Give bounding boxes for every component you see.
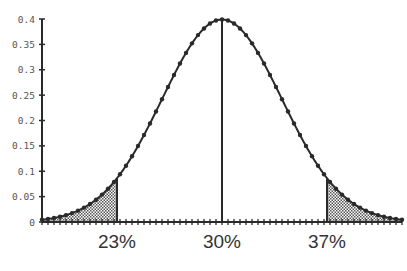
data-point: [148, 121, 152, 125]
data-point: [202, 26, 206, 30]
y-tick-label: 0.35: [12, 39, 35, 50]
shaded-tail: [327, 178, 402, 222]
data-point: [322, 172, 326, 176]
data-point: [394, 217, 398, 221]
data-point: [46, 217, 50, 221]
reference-lines: [117, 20, 327, 222]
data-point: [40, 218, 44, 222]
data-point: [196, 33, 200, 37]
data-point: [106, 186, 110, 190]
data-point: [346, 197, 350, 201]
x-tick-label: 37%: [308, 231, 346, 252]
data-point: [208, 21, 212, 25]
data-point: [124, 164, 128, 168]
y-tick-label: 0.15: [12, 140, 35, 151]
y-tick-label: 0: [29, 217, 35, 228]
y-tick-label: 0.25: [12, 90, 35, 101]
data-point: [82, 205, 86, 209]
data-point: [298, 133, 302, 137]
data-point: [142, 133, 146, 137]
y-axis-labels: 00.050.10.150.20.250.30.350.4: [12, 14, 35, 228]
x-tick-label: 30%: [203, 231, 241, 252]
y-tick-label: 0.1: [18, 166, 35, 177]
data-point: [178, 61, 182, 65]
data-point: [70, 211, 74, 215]
data-point: [334, 186, 338, 190]
data-point: [400, 218, 404, 222]
data-point: [382, 215, 386, 219]
data-point: [286, 109, 290, 113]
data-point: [262, 61, 266, 65]
data-point: [100, 192, 104, 196]
data-point: [154, 109, 158, 113]
data-point: [94, 197, 98, 201]
y-tick-label: 0.4: [18, 14, 35, 25]
data-point: [130, 154, 134, 158]
data-point: [310, 154, 314, 158]
data-point: [214, 18, 218, 22]
data-point: [256, 51, 260, 55]
data-point: [250, 41, 254, 45]
data-point: [160, 97, 164, 101]
data-point: [364, 208, 368, 212]
data-point: [244, 33, 248, 37]
data-point: [88, 202, 92, 206]
data-point: [58, 215, 62, 219]
data-point: [292, 121, 296, 125]
data-point: [304, 144, 308, 148]
data-point: [352, 202, 356, 206]
y-tick-label: 0.2: [18, 115, 35, 126]
data-point: [64, 213, 68, 217]
y-tick-label: 0.3: [18, 64, 35, 75]
data-point: [172, 73, 176, 77]
data-point: [316, 164, 320, 168]
data-point: [166, 85, 170, 89]
data-point: [226, 18, 230, 22]
x-axis-labels: 23%30%37%: [98, 231, 346, 252]
axes: [39, 19, 402, 225]
data-point: [280, 97, 284, 101]
data-point: [112, 180, 116, 184]
data-point: [220, 17, 224, 21]
shaded-tail: [42, 178, 117, 222]
data-point: [370, 211, 374, 215]
data-point: [328, 180, 332, 184]
data-point: [232, 21, 236, 25]
x-tick-label: 23%: [98, 231, 136, 252]
data-point: [76, 208, 80, 212]
data-point: [388, 216, 392, 220]
data-point: [274, 85, 278, 89]
data-point: [268, 73, 272, 77]
data-point: [118, 172, 122, 176]
data-point: [190, 41, 194, 45]
data-point: [238, 26, 242, 30]
data-point: [340, 192, 344, 196]
y-tick-label: 0.05: [12, 191, 35, 202]
normal-distribution-chart: 00.050.10.150.20.250.30.350.4 23%30%37%: [0, 0, 407, 271]
data-point: [136, 144, 140, 148]
data-point: [52, 216, 56, 220]
data-point: [376, 213, 380, 217]
data-point: [184, 51, 188, 55]
data-point: [358, 205, 362, 209]
